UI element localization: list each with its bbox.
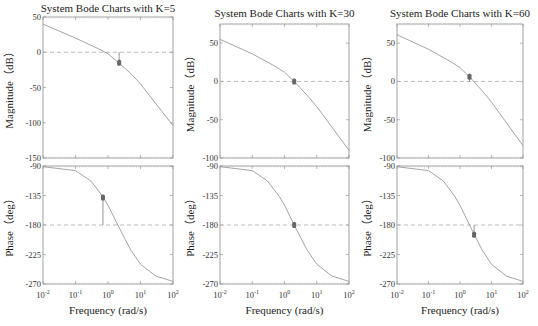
y-tick-label: 50	[33, 12, 42, 22]
y-tick-label: -90	[384, 161, 395, 171]
phase-ylabel: Phase（deg）	[3, 193, 15, 257]
x-tick-label: 101	[135, 289, 147, 300]
y-tick-label: -50	[30, 83, 41, 93]
margin-marker	[292, 222, 296, 228]
magnitude-curve	[397, 35, 523, 146]
x-tick-label: 100	[279, 289, 291, 300]
y-tick-label: -90	[30, 161, 41, 171]
phase-curve	[397, 167, 523, 282]
y-tick-label: -100	[25, 118, 41, 128]
chart-title: System Bode Charts with K=30	[214, 7, 355, 19]
x-axis-label: Frequency (rad/s)	[421, 304, 499, 317]
chart-title: System Bode Charts with K=60	[390, 7, 531, 19]
x-tick-label: 10-2	[213, 289, 227, 300]
magnitude-ylabel: Magnitude（dB）	[184, 50, 196, 133]
y-tick-label: -135	[25, 191, 41, 201]
magnitude-curve	[220, 39, 349, 150]
phase-curve	[43, 167, 173, 282]
x-tick-label: 10-1	[422, 289, 436, 300]
x-tick-label: 102	[517, 289, 529, 300]
y-tick-label: 0	[214, 76, 218, 86]
y-tick-label: 50	[387, 38, 396, 48]
x-tick-label: 10-1	[246, 289, 260, 300]
margin-marker	[101, 194, 105, 200]
margin-marker	[292, 78, 296, 84]
x-axis-label: Frequency (rad/s)	[69, 304, 147, 317]
magnitude-plot: 500-50-100Magnitude（dB）	[184, 24, 349, 163]
plot-frame	[43, 17, 173, 158]
y-tick-label: -50	[207, 115, 218, 125]
y-tick-label: -135	[379, 191, 395, 201]
x-tick-label: 102	[167, 289, 179, 300]
y-tick-label: -225	[379, 250, 395, 260]
phase-plot: -90-135-180-225-270Phase（deg）	[3, 161, 173, 289]
chart-title: System Bode Charts with K=5	[41, 2, 176, 14]
magnitude-plot: 500-50-100-150Magnitude（dB）	[3, 12, 173, 163]
phase-plot: -90-135-180-225-270Phase（deg）	[361, 161, 523, 289]
y-tick-label: -180	[25, 220, 41, 230]
x-tick-label: 10-2	[390, 289, 404, 300]
magnitude-plot: 500-50-100Magnitude（dB）	[361, 24, 523, 163]
phase-plot: -90-135-180-225-270Phase（deg）	[184, 161, 349, 289]
x-tick-label: 101	[486, 289, 498, 300]
y-tick-label: 0	[391, 76, 395, 86]
bode-panel-k5: System Bode Charts with K=5500-50-100-15…	[3, 2, 179, 317]
y-tick-label: -270	[379, 279, 395, 289]
x-tick-label: 10-2	[36, 289, 50, 300]
phase-curve	[220, 167, 349, 282]
y-tick-label: -270	[202, 279, 218, 289]
y-tick-label: -270	[25, 279, 41, 289]
plot-frame	[397, 24, 523, 158]
x-tick-label: 100	[454, 289, 466, 300]
phase-ylabel: Phase（deg）	[361, 193, 373, 257]
margin-marker	[117, 60, 121, 66]
y-tick-label: -90	[207, 161, 218, 171]
magnitude-curve	[43, 24, 173, 126]
y-tick-label: 50	[210, 38, 219, 48]
bode-panel-k60: System Bode Charts with K=60500-50-100Ma…	[361, 7, 531, 317]
bode-panel-k30: System Bode Charts with K=30500-50-100Ma…	[184, 7, 355, 317]
x-axis-label: Frequency (rad/s)	[246, 304, 324, 317]
y-tick-label: -225	[25, 250, 41, 260]
y-tick-label: -225	[202, 250, 218, 260]
x-tick-label: 100	[102, 289, 114, 300]
margin-marker	[472, 232, 476, 238]
y-tick-label: -180	[202, 220, 218, 230]
bode-charts-figure: System Bode Charts with K=5500-50-100-15…	[0, 0, 538, 326]
x-tick-label: 101	[311, 289, 323, 300]
y-tick-label: 0	[37, 47, 41, 57]
magnitude-ylabel: Magnitude（dB）	[3, 46, 15, 129]
x-tick-label: 10-1	[69, 289, 83, 300]
y-tick-label: -180	[379, 220, 395, 230]
phase-ylabel: Phase（deg）	[184, 193, 196, 257]
plot-frame	[220, 24, 349, 158]
magnitude-ylabel: Magnitude（dB）	[361, 50, 373, 133]
margin-marker	[467, 74, 471, 80]
y-tick-label: -50	[384, 115, 395, 125]
x-tick-label: 102	[343, 289, 355, 300]
y-tick-label: -135	[202, 191, 218, 201]
